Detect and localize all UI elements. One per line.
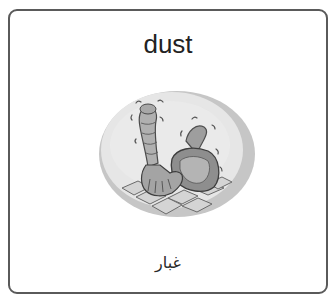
dust-illustration [96,87,256,219]
flashcard: dust [8,9,328,294]
dustpan-and-glove-icon [96,87,256,219]
arabic-translation: غبار [10,251,326,275]
english-word: dust [10,29,326,59]
